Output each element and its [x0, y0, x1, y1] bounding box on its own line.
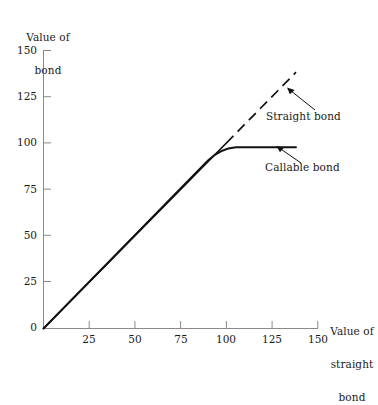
straight-bond-annotation-leader	[287, 88, 315, 111]
straight-bond-dashed-segment	[226, 72, 296, 143]
straight-bond-annotation-label: Straight bond	[266, 111, 341, 122]
x-axis-title-line1: Value of	[326, 326, 378, 337]
y-tick-label-25: 25	[6, 276, 37, 287]
x-axis-title: Value of straight bond	[326, 304, 378, 405]
y-tick-label-0: 0	[6, 322, 37, 333]
y-tick-label-125: 125	[6, 91, 37, 102]
y-tick-label-100: 100	[6, 137, 37, 148]
x-axis-title-line2: straight	[326, 359, 378, 370]
y-axis-title-line2: bond	[15, 65, 81, 76]
x-tick-label-25: 25	[74, 334, 104, 345]
x-tick-label-100: 100	[211, 334, 241, 345]
x-tick-label-50: 50	[120, 334, 150, 345]
y-tick-label-150: 150	[6, 45, 37, 56]
y-axis-title-line1: Value of	[15, 32, 81, 43]
x-tick-label-150: 150	[303, 334, 333, 345]
x-axis-title-line3: bond	[326, 392, 378, 403]
x-axis-ticks	[89, 321, 318, 329]
y-tick-label-75: 75	[6, 184, 37, 195]
callable-bond-annotation-label: Callable bond	[265, 162, 340, 173]
y-tick-label-50: 50	[6, 230, 37, 241]
x-tick-label-75: 75	[166, 334, 196, 345]
callable-bond-curve	[44, 147, 297, 328]
x-tick-label-125: 125	[257, 334, 287, 345]
